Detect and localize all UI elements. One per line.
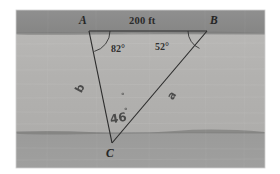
side-label-AB: 200 ft: [129, 16, 156, 27]
angle-label-A: 82°: [111, 44, 125, 54]
handwritten-degree-mark: °: [121, 93, 125, 100]
panel-background: [16, 10, 265, 168]
lower-dark-band: [16, 132, 265, 168]
middle-light-band: [16, 33, 265, 132]
vertex-label-C: C: [106, 148, 114, 160]
vertex-label-B: B: [210, 15, 218, 27]
vertex-label-A: A: [79, 15, 87, 27]
angle-label-C-handwritten: 46: [109, 111, 128, 126]
figure-root: A B C 200 ft 82° 52° b a ° ° 46: [0, 0, 280, 174]
angle-label-B: 52°: [155, 42, 169, 52]
